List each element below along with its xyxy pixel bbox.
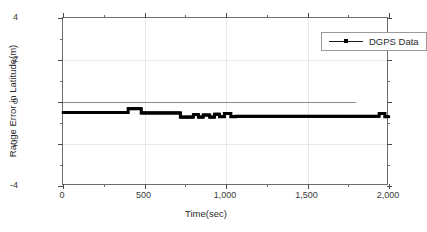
legend-entry-label: DGPS Data [369, 36, 419, 47]
x-axis-tick [389, 184, 390, 189]
series-marker [223, 115, 226, 118]
series-marker [197, 113, 200, 116]
x-axis-tick [389, 13, 390, 18]
x-axis-tick-label: 1,000 [201, 190, 249, 200]
series-marker [383, 112, 386, 115]
series-marker [377, 115, 380, 118]
x-axis-tick-label: 1,500 [283, 190, 331, 200]
y-axis-tick-label: 4 [0, 12, 18, 22]
x-axis-title: Time(sec) [0, 208, 412, 219]
y-axis-tick-label: -4 [0, 180, 18, 190]
chart-legend[interactable]: DGPS Data [321, 32, 427, 51]
y-axis-tick-label: -2 [0, 138, 18, 148]
y-axis-tick-label: 0 [0, 96, 18, 106]
series-marker [126, 111, 129, 114]
y-axis-tick-label: 2 [0, 54, 18, 64]
series-marker [388, 115, 391, 118]
legend-line-marker-icon [329, 37, 363, 46]
series-dgps-markers [62, 107, 390, 118]
x-axis-tick-label: 2,000 [364, 190, 412, 200]
plot-area: DGPS Data [62, 17, 388, 185]
series-marker [229, 112, 232, 115]
series-marker [213, 116, 216, 119]
x-axis-tick-label: 500 [120, 190, 168, 200]
x-axis-tick-label: 0 [38, 190, 86, 200]
series-marker [192, 116, 195, 119]
series-marker [218, 113, 221, 116]
series-marker [140, 107, 143, 110]
series-marker [179, 112, 182, 115]
